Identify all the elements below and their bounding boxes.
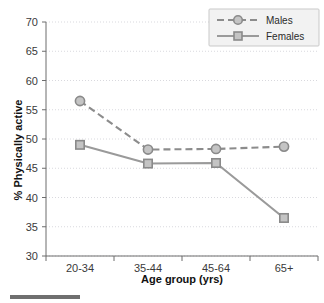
physical-activity-line-chart: 303540455055606570 20-3435-4445-6465+ % … — [0, 0, 324, 303]
series-males — [75, 96, 288, 154]
data-point-marker — [143, 145, 152, 154]
data-point-marker — [212, 159, 220, 167]
y-tick-label: 45 — [26, 162, 38, 174]
y-tick-label: 40 — [26, 192, 38, 204]
y-axis: 303540455055606570 — [26, 16, 46, 262]
y-tick-label: 70 — [26, 16, 38, 28]
y-tick-label: 50 — [26, 133, 38, 145]
data-point-marker — [211, 144, 220, 153]
x-axis-title: Age group (yrs) — [141, 273, 223, 285]
data-point-marker — [280, 214, 288, 222]
series-females — [76, 141, 288, 223]
data-point-marker — [75, 96, 84, 105]
chart-container: 303540455055606570 20-3435-4445-6465+ % … — [0, 0, 324, 303]
legend-marker-circle-icon — [234, 16, 243, 25]
legend-label: Females — [266, 31, 304, 42]
x-tick-label: 65+ — [275, 262, 294, 274]
chart-legend[interactable]: MalesFemales — [209, 9, 319, 46]
data-point-marker — [144, 159, 152, 167]
y-axis-title: % Physically active — [12, 100, 24, 201]
data-point-marker — [279, 142, 288, 151]
gridlines — [46, 22, 318, 256]
x-axis: 20-3435-4445-6465+ — [46, 256, 318, 274]
series-line — [80, 145, 284, 218]
series-line — [80, 101, 284, 150]
y-tick-label: 55 — [26, 104, 38, 116]
x-tick-label: 20-34 — [66, 262, 94, 274]
data-series — [75, 96, 288, 222]
y-tick-label: 65 — [26, 45, 38, 57]
y-tick-label: 30 — [26, 250, 38, 262]
data-point-marker — [76, 141, 84, 149]
caption-rule — [10, 295, 80, 299]
y-tick-label: 35 — [26, 221, 38, 233]
legend-marker-square-icon — [234, 32, 242, 40]
legend-label: Males — [266, 15, 293, 26]
y-tick-label: 60 — [26, 75, 38, 87]
